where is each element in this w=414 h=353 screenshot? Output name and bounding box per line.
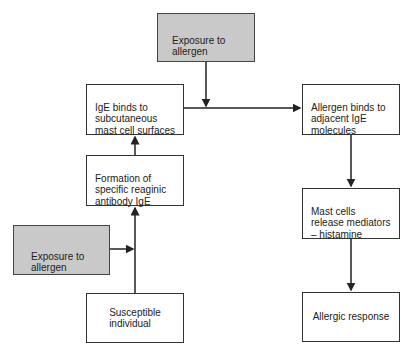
node-formation: Formation of specific reaginic antibody … (86, 155, 184, 206)
node-exposure-top: Exposure to allergen (157, 13, 255, 62)
node-susceptible: Susceptible individual (86, 293, 184, 343)
node-label: Exposure to allergen (172, 35, 225, 58)
node-mast-cells: Mast cells release mediators – histamine (302, 188, 400, 239)
node-allergen-binds: Allergen binds to adjacent IgE molecules (302, 84, 400, 135)
node-label: Formation of specific reaginic antibody … (95, 173, 166, 207)
node-label: Susceptible individual (109, 307, 161, 330)
node-label: IgE binds to subcutaneous mast cell surf… (95, 102, 175, 136)
node-label: Allergic response (313, 311, 390, 323)
node-label: Mast cells release mediators – histamine (311, 206, 390, 240)
node-ige-binds: IgE binds to subcutaneous mast cell surf… (86, 84, 184, 135)
node-label: Allergen binds to adjacent IgE molecules (311, 102, 386, 136)
node-allergic-response: Allergic response (302, 292, 400, 342)
node-exposure-left: Exposure to allergen (13, 225, 110, 275)
node-label: Exposure to allergen (31, 251, 84, 274)
